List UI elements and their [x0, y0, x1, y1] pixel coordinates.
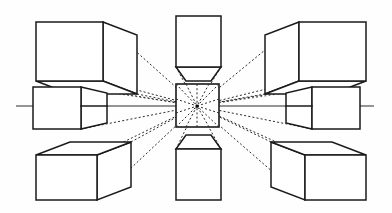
perspective-drawing-canvas [0, 0, 392, 213]
cube-middle-left-front-face [33, 87, 81, 129]
cube-middle-right-front-face [312, 87, 360, 129]
cube-top-center-front-face [176, 16, 221, 67]
cube-middle-left-right-face [81, 87, 107, 129]
cube-middle-left [33, 87, 107, 129]
cube-top-right [265, 22, 366, 94]
cube-middle-right [286, 87, 360, 129]
cube-bottom-right-front-face [305, 155, 366, 200]
cube-middle-right-left-face [286, 87, 312, 129]
cube-bottom-left-front-face [36, 155, 97, 200]
perspective-diagram [0, 0, 392, 213]
cube-top-left-front-face [36, 22, 103, 81]
vanishing-point-dot [195, 104, 198, 107]
cube-bottom-right [271, 142, 366, 200]
cube-bottom-center [176, 135, 221, 200]
cube-top-center [176, 16, 221, 81]
cube-bottom-left [36, 142, 131, 200]
cube-top-right-front-face [299, 22, 366, 81]
cube-top-left [36, 22, 137, 94]
cube-bottom-center-front-face [176, 149, 221, 200]
